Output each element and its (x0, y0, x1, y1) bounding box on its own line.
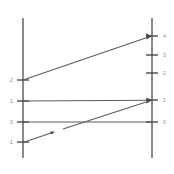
left-axis-tick-label-0: 0 (10, 119, 13, 125)
right-axis-tick-label-3: 3 (163, 52, 166, 58)
right-axis-tick-label-4: 4 (163, 33, 166, 39)
left-axis-tick-label-1: 1 (10, 98, 13, 104)
mapping-lines-group (23, 33, 152, 142)
diagram-canvas: 2 1 0 -1 4 3 2 1 0 (0, 0, 174, 174)
mapping-diagram-figure: 2 1 0 -1 4 3 2 1 0 (0, 0, 174, 174)
right-axis-group: 4 3 2 1 0 (146, 18, 166, 158)
right-axis-tick-label-1: 1 (163, 97, 166, 103)
right-axis-tick-label-0: 0 (163, 119, 166, 125)
right-axis-tick-label-2: 2 (163, 70, 166, 76)
mapping-arrowhead-2-to-4 (146, 33, 152, 39)
left-axis-group: 2 1 0 -1 (8, 18, 29, 158)
mapping-line-neg1-to-1-segment-b (63, 101, 150, 129)
mapping-line-1-to-1 (23, 100, 152, 101)
mapping-line-neg1-to-1-segment-a (23, 132, 54, 143)
mapping-line-2-to-4 (23, 37, 150, 81)
left-axis-tick-label-neg1: -1 (8, 139, 13, 145)
left-axis-tick-label-2: 2 (10, 77, 13, 83)
